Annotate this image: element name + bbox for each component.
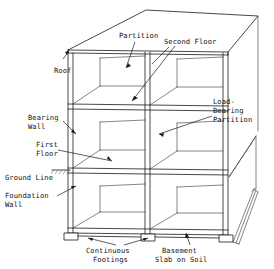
room-base-left [73, 184, 145, 228]
ground-line-right [229, 136, 256, 191]
label-foundation-wall-line2: Wall [5, 200, 22, 209]
label-load-bearing-line1: Load- [213, 97, 235, 106]
leader-lines [57, 42, 212, 245]
building-frame-diagram: Roof Partition Second Floor Bearing Wall… [0, 0, 274, 269]
diagram-canvas: Roof Partition Second Floor Bearing Wall… [0, 0, 274, 269]
label-first-floor-line2: Floor [36, 149, 58, 158]
label-ground-line: Ground Line [5, 173, 53, 182]
ground-hatch-left [51, 170, 70, 174]
label-bearing-wall-line2: Wall [28, 122, 45, 131]
front-frame-grid [68, 50, 228, 235]
label-continuous-footings-line1: Continuous [86, 246, 130, 255]
label-load-bearing-line2: Bearing [213, 106, 244, 115]
vertical-walls [68, 50, 228, 235]
label-partition: Partition [119, 31, 158, 40]
room-base-right [150, 185, 223, 229]
room-mid-left [73, 120, 145, 168]
label-second-floor: Second Floor [164, 37, 216, 46]
basement-slab-edge [233, 189, 258, 244]
label-basement-slab-line2: Slab on Soil [155, 255, 207, 264]
ground-line-left [51, 170, 70, 174]
label-foundation-wall-line1: Foundation [5, 191, 49, 200]
label-first-floor-line1: First [36, 140, 58, 149]
label-continuous-footings-line2: Footings [93, 255, 128, 264]
label-basement-slab-line1: Basement [162, 246, 197, 255]
floor-bands [68, 104, 228, 235]
label-roof: Roof [54, 66, 71, 75]
room-interiors [73, 56, 223, 229]
label-load-bearing-line3: Partition [213, 115, 252, 124]
room-mid-right [150, 121, 223, 169]
label-bearing-wall-line1: Bearing [28, 113, 59, 122]
roof-slab [68, 10, 258, 55]
